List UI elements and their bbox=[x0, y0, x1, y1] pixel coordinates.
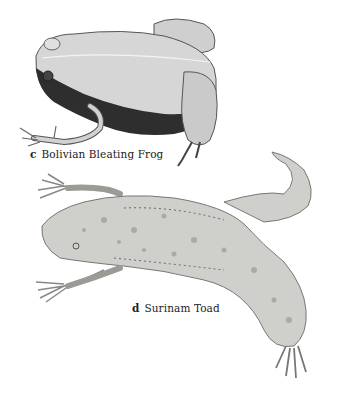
frog-illustration bbox=[14, 10, 224, 170]
toad-illustration bbox=[24, 150, 344, 390]
figure-letter: d bbox=[132, 302, 139, 314]
toad-caption: dSurinam Toad bbox=[132, 302, 220, 314]
toad-figure bbox=[24, 150, 344, 390]
figure-caption-text: Surinam Toad bbox=[144, 302, 219, 314]
frog-figure bbox=[14, 10, 224, 170]
